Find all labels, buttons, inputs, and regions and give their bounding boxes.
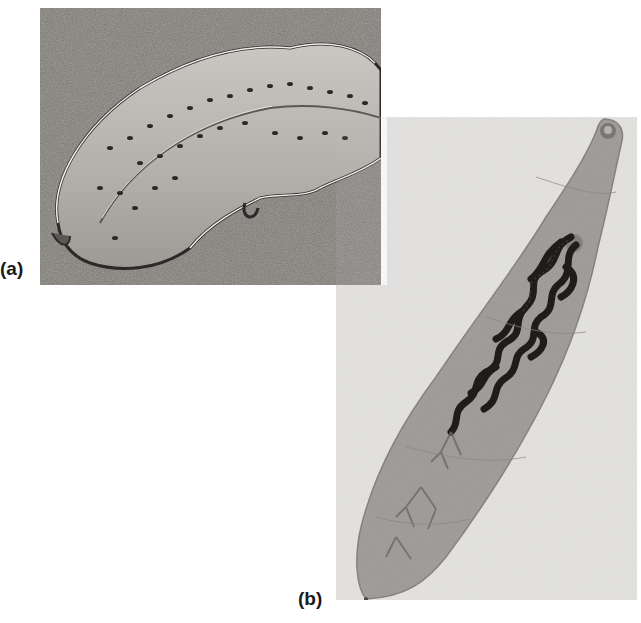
flatworm-illustration [40, 8, 381, 285]
photo-fluke [336, 285, 637, 600]
panel-label-b: (b) [298, 588, 322, 610]
panel-label-a: (a) [0, 258, 23, 280]
photo-flatworm [40, 8, 381, 285]
photo-fluke-top [387, 117, 637, 285]
